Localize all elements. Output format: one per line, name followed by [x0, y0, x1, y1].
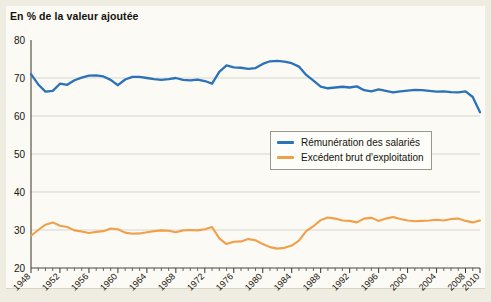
y-axis-tick-label: 80 — [14, 35, 26, 46]
y-axis-tick-label: 60 — [14, 111, 26, 122]
x-axis-tick-label: 2010 — [460, 271, 481, 292]
y-axis-tick-label: 30 — [14, 225, 26, 236]
x-axis-tick-label: 1956 — [69, 271, 90, 292]
series-line-remuneration — [31, 61, 480, 112]
x-axis-tick-labels: 1948195219561960196419681972197619801984… — [11, 271, 481, 292]
y-axis-tick-label: 40 — [14, 187, 26, 198]
legend-label-remuneration: Rémunération des salariés — [301, 137, 420, 148]
x-axis-tick-label: 1948 — [11, 271, 32, 292]
x-axis-tick-label: 1960 — [98, 271, 119, 292]
legend-swatch-blue — [277, 141, 294, 144]
y-axis-tick-labels: 20304050607080 — [14, 35, 26, 274]
legend-item-excedent: Excédent brut d'exploitation — [277, 150, 424, 165]
x-axis-tick-label: 1972 — [185, 271, 206, 292]
chart-page: En % de la valeur ajoutée 20304050607080… — [0, 0, 491, 302]
x-axis-tick-label: 1952 — [40, 271, 61, 292]
x-axis-tick-label: 1992 — [330, 271, 351, 292]
x-axis-tick-label: 1984 — [272, 271, 293, 292]
x-axis-tick-label: 1996 — [359, 271, 380, 292]
x-axis-tick-label: 1980 — [243, 271, 264, 292]
series-line-excedent — [31, 217, 480, 249]
legend-label-excedent: Excédent brut d'exploitation — [301, 152, 424, 163]
legend-item-remuneration: Rémunération des salariés — [277, 135, 424, 150]
x-axis-tick-label: 1976 — [214, 271, 235, 292]
y-axis-tick-label: 50 — [14, 149, 26, 160]
chart-legend: Rémunération des salariés Excédent brut … — [270, 131, 432, 170]
x-axis-tick-label: 2004 — [417, 271, 438, 292]
x-axis-tick-label: 1968 — [156, 271, 177, 292]
legend-swatch-orange — [277, 156, 294, 159]
x-axis-tick-label: 1988 — [301, 271, 322, 292]
x-axis-tick-label: 1964 — [127, 271, 148, 292]
y-axis-tick-label: 70 — [14, 73, 26, 84]
x-axis-tick-label: 2000 — [388, 271, 409, 292]
